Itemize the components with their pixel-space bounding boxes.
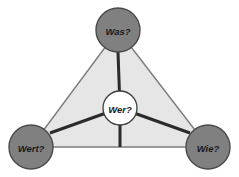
- node-wie-label: Wie?: [197, 143, 220, 154]
- node-was[interactable]: Was?: [96, 8, 140, 52]
- node-was-label: Was?: [105, 26, 130, 37]
- node-wer[interactable]: Wer?: [103, 91, 137, 125]
- node-wer-label: Wer?: [108, 104, 132, 115]
- diagram-canvas: Was? Wert? Wie? Wer?: [0, 0, 239, 177]
- node-wert[interactable]: Wert?: [9, 125, 53, 169]
- node-wie[interactable]: Wie?: [186, 125, 230, 169]
- triangle-diagram: Was? Wert? Wie? Wer?: [0, 0, 239, 177]
- node-wert-label: Wert?: [18, 143, 45, 154]
